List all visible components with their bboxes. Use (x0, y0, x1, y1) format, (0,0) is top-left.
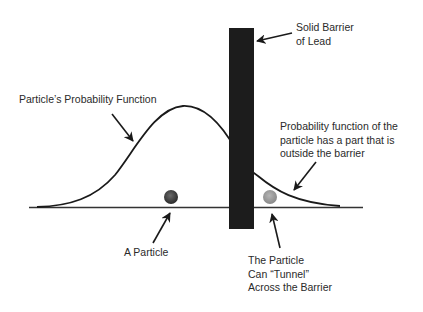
label-tunnel: The Particle Can “Tunnel” Across the Bar… (248, 254, 332, 295)
particle-right (263, 190, 277, 204)
particle-left (164, 190, 178, 204)
label-probability-function: Particle’s Probability Function (19, 93, 157, 107)
label-barrier: Solid Barrier of Lead (296, 21, 354, 48)
label-particle: A Particle (124, 246, 168, 260)
arrow-probability-function (112, 114, 133, 141)
lead-barrier (229, 28, 254, 229)
arrow-tunnel (272, 214, 280, 248)
arrow-outside-part (294, 162, 316, 190)
label-outside-part: Probability function of the particle has… (280, 120, 398, 161)
arrow-particle (153, 213, 170, 243)
arrow-barrier (257, 33, 292, 41)
